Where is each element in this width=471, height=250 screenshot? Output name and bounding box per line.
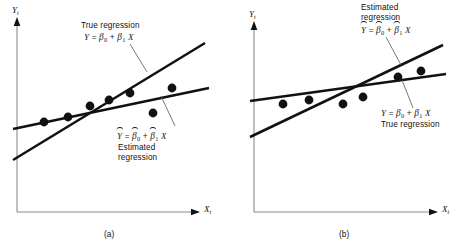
regression-comparison-figure: Yt Xt True regression Y = β0 + β1 X Y = …	[0, 0, 471, 250]
y-axis-label-b: Yt	[249, 9, 256, 19]
true-regression-equation-a: Y = β0 + β1 X	[84, 32, 134, 42]
y-axis-b	[251, 21, 258, 212]
x-axis-a	[17, 209, 200, 216]
leader-line-estimated-a	[161, 96, 175, 126]
leader-line-true-b	[402, 80, 413, 108]
data-point	[417, 67, 426, 76]
x-axis-b	[254, 209, 438, 216]
data-point	[105, 96, 114, 105]
data-point	[305, 96, 314, 105]
true-regression-label-a: True regression	[81, 21, 140, 31]
data-point	[64, 113, 73, 122]
leader-line-true-a	[130, 44, 147, 72]
estimated-regression-label-line1-b: Estimated	[361, 3, 398, 13]
data-point	[168, 84, 177, 93]
data-point	[40, 118, 49, 127]
y-axis-label-a: Yt	[12, 5, 19, 15]
panel-b: Yt Xt Estimated regression Y = β0 + β1 X…	[235, 0, 471, 250]
panel-caption-a: (a)	[104, 229, 114, 239]
data-point	[149, 109, 158, 118]
estimated-regression-equation-a: Y = β0 + β1 X	[117, 131, 167, 141]
estimated-regression-label-line2-a: regression	[118, 153, 157, 163]
estimated-regression-label-line1-a: Estimated	[118, 143, 155, 153]
data-point	[339, 100, 348, 109]
panel-a: Yt Xt True regression Y = β0 + β1 X Y = …	[0, 0, 236, 250]
data-point	[394, 73, 403, 82]
data-point	[359, 93, 368, 102]
true-regression-label-b: True regression	[381, 120, 440, 130]
y-axis-a	[14, 17, 21, 212]
true-regression-line-b	[250, 74, 446, 101]
estimated-regression-equation-b: Y = β0 + β1 X	[361, 25, 411, 35]
true-regression-equation-b: Y = β0 + β1 X	[381, 108, 431, 118]
data-point	[126, 89, 135, 98]
leader-line-estimated-b	[386, 37, 401, 65]
x-axis-label-a: Xt	[204, 204, 211, 214]
data-point	[86, 102, 95, 111]
x-axis-label-b: Xt	[442, 204, 449, 214]
data-point	[279, 100, 288, 109]
panel-caption-b: (b)	[339, 229, 349, 239]
